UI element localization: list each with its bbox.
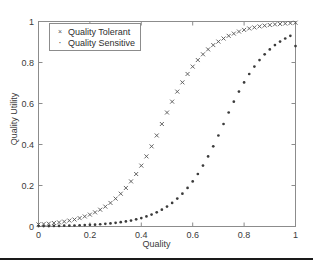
data-point-marker [232, 100, 235, 103]
data-point-marker [144, 154, 148, 158]
x-tick-label: 0.2 [84, 230, 97, 240]
data-point-marker [222, 37, 226, 41]
data-point-marker [94, 223, 97, 226]
x-tick-label: 0.6 [186, 230, 199, 240]
data-point-marker [268, 48, 271, 51]
tick-marks [39, 22, 296, 227]
data-point-marker [68, 224, 71, 227]
data-point-marker [150, 213, 153, 216]
data-point-marker [104, 222, 107, 225]
y-tick-label: 0 [8, 222, 34, 232]
data-point-marker [89, 224, 92, 227]
data-point-marker [119, 221, 122, 224]
data-point-marker [176, 197, 179, 200]
plot-canvas [0, 0, 313, 268]
data-point-marker [186, 187, 189, 190]
data-point-marker [93, 210, 97, 214]
y-tick-label: 0.8 [8, 58, 34, 68]
data-point-marker [283, 22, 287, 26]
data-point-marker [155, 133, 159, 137]
data-point-marker [155, 211, 158, 214]
data-point-marker [140, 217, 143, 220]
data-point-marker [284, 37, 287, 40]
data-point-marker [227, 111, 230, 114]
data-point-marker [145, 215, 148, 218]
data-point-marker [242, 28, 246, 32]
data-point-marker [134, 172, 138, 176]
legend-marker-x-icon: × [53, 28, 67, 35]
data-point-marker [289, 35, 292, 38]
data-point-marker [216, 40, 220, 44]
x-tick-label: 0 [36, 230, 41, 240]
data-point-marker [253, 65, 256, 68]
data-point-marker [119, 192, 123, 196]
data-point-marker [196, 58, 200, 62]
plot-frame [39, 22, 296, 227]
data-point-marker [129, 179, 133, 183]
data-point-marker [124, 186, 128, 190]
data-point-marker [72, 218, 76, 222]
data-point-marker [180, 80, 184, 84]
axis-frame [39, 22, 296, 227]
data-point-marker [73, 224, 76, 227]
data-point-marker [103, 205, 107, 209]
data-point-marker [170, 100, 174, 104]
data-point-marker [42, 225, 45, 228]
data-point-marker [217, 134, 220, 137]
data-point-marker [78, 216, 82, 220]
x-tick-label: 1 [293, 230, 298, 240]
data-point-marker [88, 213, 92, 217]
legend-item-quality-sensitive: · Quality Sensitive [53, 37, 135, 48]
series-quality-sensitive [37, 35, 297, 228]
data-point-marker [83, 224, 86, 227]
data-point-marker [67, 219, 71, 223]
data-point-marker [252, 25, 256, 29]
data-point-marker [212, 145, 215, 148]
data-point-marker [202, 164, 205, 167]
data-point-marker [166, 205, 169, 208]
data-point-marker [161, 208, 164, 211]
legend-label-quality-sensitive: Quality Sensitive [67, 38, 135, 48]
data-point-marker [160, 122, 164, 126]
data-point-marker [294, 45, 297, 48]
x-tick-label: 0.8 [238, 230, 251, 240]
data-point-marker [263, 53, 266, 56]
data-point-marker [196, 173, 199, 176]
data-point-marker [248, 73, 251, 76]
data-point-marker [37, 225, 40, 228]
data-point-marker [191, 180, 194, 183]
x-tick-label: 0.4 [135, 230, 148, 240]
data-point-marker [181, 192, 184, 195]
data-point-marker [247, 26, 251, 30]
data-point-marker [98, 208, 102, 212]
data-point-marker [109, 222, 112, 225]
data-point-marker [139, 164, 143, 168]
data-point-marker [268, 23, 272, 27]
data-point-marker [211, 43, 215, 47]
data-point-marker [258, 24, 262, 28]
data-point-marker [258, 59, 261, 62]
y-tick-label: 0.6 [8, 99, 34, 109]
legend-item-quality-tolerant: × Quality Tolerant [53, 26, 135, 37]
data-point-marker [263, 24, 267, 28]
data-point-marker [58, 225, 61, 228]
data-point-marker [243, 81, 246, 84]
data-point-marker [232, 32, 236, 36]
chart-legend: × Quality Tolerant · Quality Sensitive [49, 23, 141, 51]
data-point-marker [171, 202, 174, 205]
data-point-marker [114, 197, 118, 201]
data-point-marker [125, 220, 128, 223]
data-point-marker [186, 72, 190, 76]
data-point-marker [53, 225, 56, 228]
data-point-marker [52, 221, 56, 225]
bottom-divider-rule [0, 258, 313, 260]
data-point-marker [222, 123, 225, 126]
legend-label-quality-tolerant: Quality Tolerant [67, 27, 130, 37]
y-tick-label: 0.4 [8, 140, 34, 150]
data-point-marker [273, 22, 277, 26]
y-tick-label: 0.2 [8, 181, 34, 191]
data-point-marker [207, 155, 210, 158]
data-point-marker [175, 90, 179, 94]
chart-figure: Quality Utility Quality 00.20.40.60.8100… [0, 0, 313, 268]
legend-marker-dot-icon: · [53, 39, 67, 46]
